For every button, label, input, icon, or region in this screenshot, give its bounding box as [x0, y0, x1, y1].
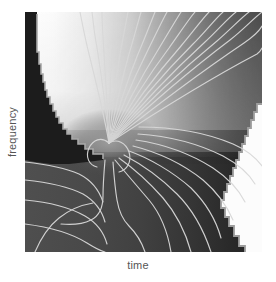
x-axis-label: time: [0, 259, 276, 271]
contour-plot-svg: [25, 12, 262, 252]
plot-area: [25, 12, 262, 252]
y-axis-label: frequency: [6, 72, 18, 192]
figure-canvas: time frequency: [0, 0, 276, 282]
